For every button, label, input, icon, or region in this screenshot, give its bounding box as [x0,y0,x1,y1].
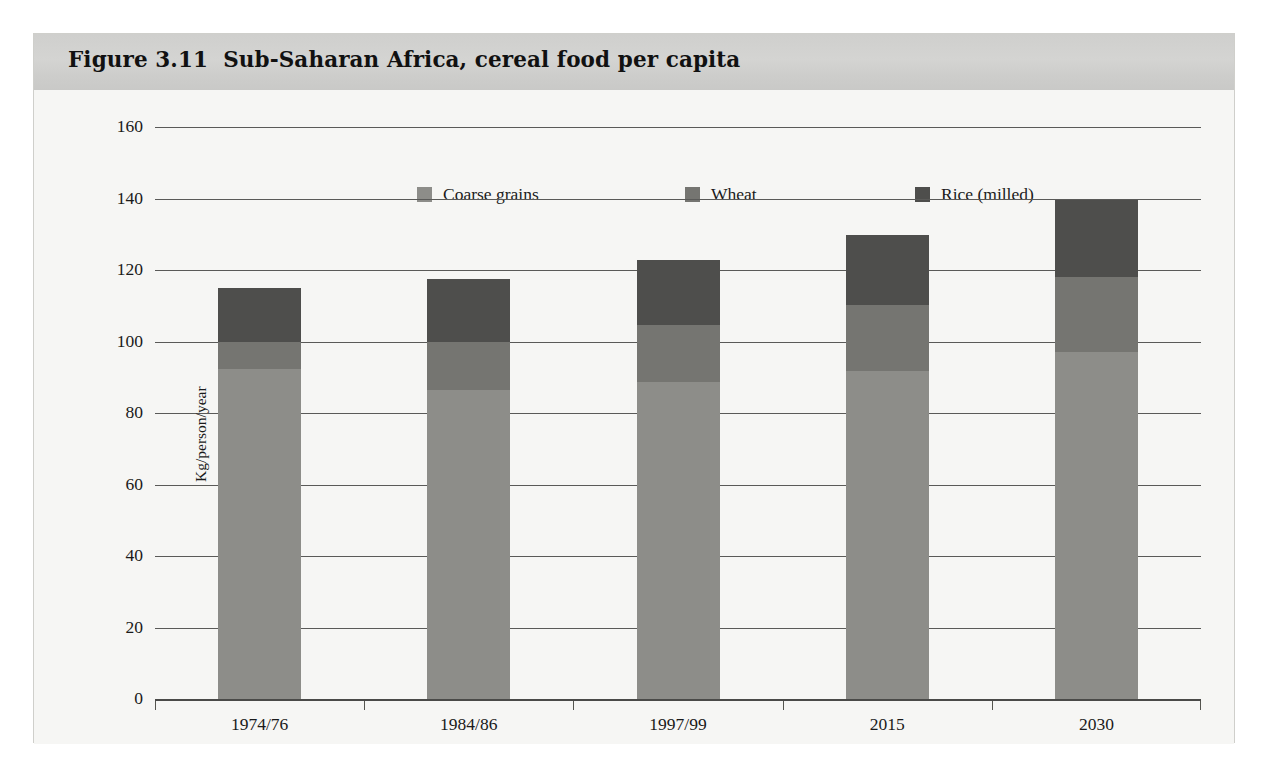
x-axis-label: 1984/86 [364,714,573,735]
x-axis-line [155,699,1201,701]
bar-segment-coarse-grains [427,390,510,699]
y-tick-label: 40 [126,545,144,566]
bar-group [218,127,301,699]
y-axis-title: Kg/person/year [192,386,210,482]
x-axis-label: 1997/99 [573,714,782,735]
bar-segment-wheat [637,325,720,382]
x-axis-tick [155,701,156,710]
bar-segment-wheat [846,305,929,371]
bar-segment-coarse-grains [218,369,301,699]
bar-segment-rice-milled [427,279,510,342]
figure-container: Figure 3.11 Sub-Saharan Africa, cereal f… [33,33,1235,743]
y-tick-label: 20 [126,617,144,638]
y-tick-label: 140 [117,188,143,209]
y-tick-label: 80 [126,402,144,423]
x-axis-tick [992,701,993,710]
x-axis-tick [783,701,784,710]
bar-segment-coarse-grains [637,382,720,699]
y-tick-label: 60 [126,474,144,495]
y-tick-label: 0 [134,688,143,709]
bar-segment-wheat [427,342,510,390]
y-tick-label: 160 [117,116,143,137]
figure-title: Figure 3.11 Sub-Saharan Africa, cereal f… [68,47,740,72]
bar-group [637,127,720,699]
bar-group [427,127,510,699]
bar-segment-coarse-grains [1055,352,1138,699]
x-axis-label: 2015 [783,714,992,735]
x-axis-tick [1200,701,1201,710]
bar-segment-rice-milled [218,288,301,342]
bar-segment-rice-milled [637,260,720,324]
y-tick-label: 100 [117,331,143,352]
x-axis-tick [573,701,574,710]
plot-area: 160140120100806040200 Kg/person/year 197… [155,94,1201,699]
x-axis-label: 1974/76 [155,714,364,735]
bar-segment-rice-milled [846,235,929,305]
bar-segment-wheat [218,342,301,370]
y-tick-label: 120 [117,259,143,280]
bar-segment-coarse-grains [846,371,929,699]
bar-segment-rice-milled [1055,200,1138,277]
bar-group [1055,127,1138,699]
x-axis-label: 2030 [992,714,1201,735]
bar-group [846,127,929,699]
bar-segment-wheat [1055,277,1138,352]
x-axis-tick [364,701,365,710]
